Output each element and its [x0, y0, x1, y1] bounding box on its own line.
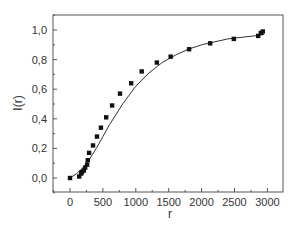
- data-point: [140, 69, 144, 73]
- y-tick-label: 1,0: [32, 24, 47, 36]
- data-point: [104, 115, 108, 119]
- data-point: [168, 54, 172, 58]
- chart: 050010001500200025003000 0,00,20,40,60,8…: [0, 0, 295, 230]
- y-tick-label: 0,2: [32, 142, 47, 154]
- data-point: [155, 60, 159, 64]
- data-point: [68, 176, 72, 180]
- fit-curve: [70, 34, 264, 178]
- data-point: [110, 103, 114, 107]
- data-point: [87, 151, 91, 155]
- x-tick-label: 3000: [255, 196, 279, 208]
- x-tick-label: 0: [67, 196, 73, 208]
- data-point: [187, 47, 191, 51]
- data-point: [208, 41, 212, 45]
- x-tick-label: 500: [94, 196, 112, 208]
- data-point: [99, 125, 103, 129]
- y-tick-label: 0,8: [32, 54, 47, 66]
- x-tick-label: 2000: [189, 196, 213, 208]
- y-tick-label: 0,0: [32, 172, 47, 184]
- data-point: [232, 37, 236, 41]
- data-point: [118, 91, 122, 95]
- data-point: [261, 29, 265, 33]
- data-point: [85, 162, 89, 166]
- x-axis-label: r: [168, 207, 172, 221]
- y-tick-label: 0,6: [32, 83, 47, 95]
- data-point: [95, 134, 99, 138]
- x-axis-ticks: 050010001500200025003000: [54, 188, 280, 208]
- x-tick-label: 2500: [222, 196, 246, 208]
- data-point: [129, 81, 133, 85]
- y-tick-label: 0,4: [32, 113, 47, 125]
- y-axis-label: I(r): [11, 95, 25, 110]
- data-point: [91, 143, 95, 147]
- data-point: [86, 158, 90, 162]
- x-tick-label: 1000: [124, 196, 148, 208]
- data-points: [68, 29, 265, 180]
